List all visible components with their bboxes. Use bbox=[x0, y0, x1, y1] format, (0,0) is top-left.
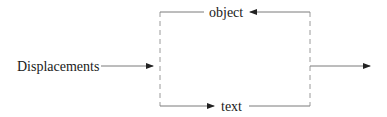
input-label: Displacements bbox=[17, 59, 99, 74]
top-branch-label: object bbox=[209, 5, 243, 20]
diagram-canvas: Displacements object text bbox=[0, 0, 387, 117]
bottom-branch-label: text bbox=[221, 99, 242, 114]
